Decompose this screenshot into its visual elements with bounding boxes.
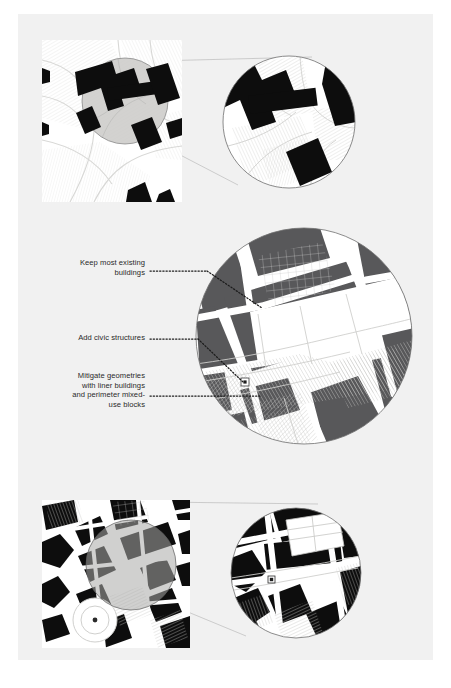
civic-structure-marker-detail xyxy=(268,576,275,583)
panel-figure-ground xyxy=(0,472,451,672)
panel-existing-conditions xyxy=(0,0,451,214)
annotation-mitigate-geometries: Mitigate geometries with liner buildings… xyxy=(10,371,145,409)
zoom-circle-proposed xyxy=(186,222,432,456)
annotation-add-civic: Add civic structures xyxy=(10,333,145,343)
zoom-circle-figureground xyxy=(226,502,361,650)
site-plan-square-figureground xyxy=(42,500,190,648)
figure-page: Keep most existing buildings Add civic s… xyxy=(0,0,451,688)
highlight-disc-bottom xyxy=(86,520,176,610)
panel-proposed-strategy: Keep most existing buildings Add civic s… xyxy=(0,214,451,472)
annotation-keep-existing: Keep most existing buildings xyxy=(10,258,145,277)
zoom-circle-existing xyxy=(223,56,356,190)
site-plan-square-existing xyxy=(42,40,186,202)
